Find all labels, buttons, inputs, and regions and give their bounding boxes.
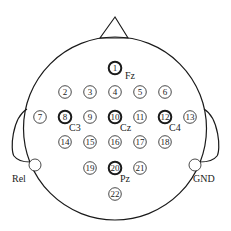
electrode-11: 11 xyxy=(134,111,147,124)
electrode-number: 17 xyxy=(136,137,146,147)
site-label-fz: Fz xyxy=(125,70,136,81)
electrode-number: 10 xyxy=(111,112,121,122)
electrode-18: 18 xyxy=(159,136,172,149)
electrode-4: 4 xyxy=(109,86,122,99)
electrode-8: 8C3 xyxy=(59,111,81,133)
electrode-group: 1Fz2345678C3910Cz1112C41314151617181920P… xyxy=(34,62,197,201)
gnd-label: GND xyxy=(193,173,215,184)
electrode-number: 7 xyxy=(38,112,43,122)
electrode-number: 8 xyxy=(63,112,68,122)
electrode-number: 20 xyxy=(111,163,121,173)
electrode-number: 4 xyxy=(113,87,118,97)
electrode-9: 9 xyxy=(84,111,97,124)
electrode-number: 14 xyxy=(61,137,71,147)
electrode-20: 20Pz xyxy=(109,162,131,184)
electrode-number: 12 xyxy=(161,112,170,122)
reference-gnd: GND xyxy=(189,159,215,184)
electrode-1: 1Fz xyxy=(109,62,136,81)
electrode-17: 17 xyxy=(134,136,147,149)
electrode-number: 9 xyxy=(88,112,93,122)
electrode-6: 6 xyxy=(159,86,172,99)
electrode-21: 21 xyxy=(134,162,147,175)
electrode-number: 3 xyxy=(88,87,93,97)
electrode-number: 21 xyxy=(136,163,145,173)
electrode-number: 22 xyxy=(111,189,120,199)
electrode-number: 19 xyxy=(86,163,96,173)
electrode-12: 12C4 xyxy=(159,111,181,133)
electrode-number: 15 xyxy=(86,137,96,147)
electrode-number: 1 xyxy=(113,63,118,73)
electrode-2: 2 xyxy=(59,86,72,99)
electrode-7: 7 xyxy=(34,111,47,124)
electrode-15: 15 xyxy=(84,136,97,149)
site-label-pz: Pz xyxy=(120,173,131,184)
electrode-number: 11 xyxy=(136,112,145,122)
electrode-10: 10Cz xyxy=(109,111,132,133)
electrode-22: 22 xyxy=(109,188,122,201)
site-label-c4: C4 xyxy=(169,122,181,133)
electrode-number: 18 xyxy=(161,137,171,147)
electrode-5: 5 xyxy=(134,86,147,99)
electrode-19: 19 xyxy=(84,162,97,175)
electrode-number: 5 xyxy=(138,87,143,97)
electrode-13: 13 xyxy=(184,111,197,124)
electrode-number: 16 xyxy=(111,137,121,147)
electrode-3: 3 xyxy=(84,86,97,99)
site-label-cz: Cz xyxy=(120,122,132,133)
electrode-number: 2 xyxy=(63,87,68,97)
nose-shape xyxy=(100,17,128,38)
rel-electrode xyxy=(29,159,41,171)
electrode-14: 14 xyxy=(59,136,72,149)
site-label-c3: C3 xyxy=(69,122,81,133)
reference-rel: Rel xyxy=(12,159,41,184)
eeg-electrode-diagram: 1Fz2345678C3910Cz1112C41314151617181920P… xyxy=(0,0,231,231)
electrode-number: 13 xyxy=(186,112,196,122)
rel-label: Rel xyxy=(12,173,26,184)
gnd-electrode xyxy=(189,159,201,171)
electrode-16: 16 xyxy=(109,136,122,149)
electrode-number: 6 xyxy=(163,87,168,97)
